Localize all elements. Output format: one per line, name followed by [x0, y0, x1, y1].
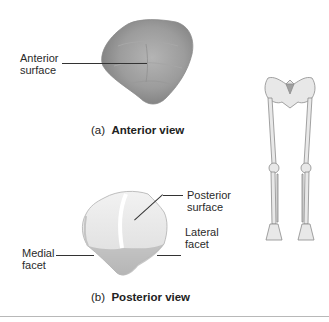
label-anterior-surface: Anterior surface [20, 52, 59, 76]
caption-b-prefix: (b) [91, 291, 105, 303]
patella-posterior-image [78, 188, 172, 280]
label-medial-facet: Medial facet [22, 247, 54, 271]
caption-b-title: Posterior view [111, 291, 190, 303]
caption-a-prefix: (a) [91, 124, 105, 136]
label-lateral-facet-line1: Lateral [185, 226, 219, 238]
label-medial-facet-line1: Medial [22, 247, 54, 259]
label-posterior-surface-line1: Posterior [187, 189, 231, 201]
label-lateral-facet: Lateral facet [185, 226, 219, 250]
label-lateral-facet-line2: facet [185, 238, 219, 250]
patella-anterior-image [98, 16, 196, 108]
leader-line-posterior-surface-h [163, 195, 183, 196]
caption-anterior-view: (a) Anterior view [91, 124, 184, 136]
leader-line-medial-facet [56, 255, 94, 256]
leader-line-anterior-surface [62, 63, 147, 64]
label-anterior-surface-line1: Anterior [20, 52, 59, 64]
lower-limb-skeleton-icon [258, 76, 322, 244]
caption-a-title: Anterior view [111, 124, 184, 136]
caption-posterior-view: (b) Posterior view [91, 291, 190, 303]
leader-line-lateral-facet [157, 255, 181, 256]
figure-bottom-rule [0, 316, 329, 317]
label-anterior-surface-line2: surface [20, 64, 59, 76]
label-posterior-surface-line2: surface [187, 201, 231, 213]
label-posterior-surface: Posterior surface [187, 189, 231, 213]
label-medial-facet-line2: facet [22, 259, 54, 271]
